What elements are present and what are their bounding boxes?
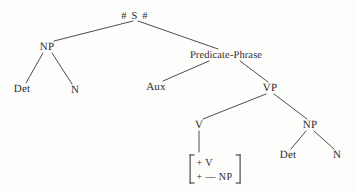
- edge-predicate-phrase-to-aux: [163, 61, 209, 81]
- node-aux: Aux: [146, 81, 166, 93]
- node-det-right: Det: [280, 149, 296, 161]
- syntax-tree-figure: # S # NP Predicate-Phrase Det N Aux VP V…: [0, 0, 357, 194]
- feature-matrix: + V + — NP: [190, 155, 241, 184]
- edge-np-subject-to-det: [26, 53, 43, 83]
- edge-vp-to-v: [203, 94, 266, 119]
- node-predicate-phrase: Predicate-Phrase: [190, 50, 262, 61]
- node-root: # S #: [121, 11, 149, 22]
- edge-np-subject-to-n: [52, 53, 72, 84]
- edge-vp-to-np-object: [274, 94, 307, 119]
- node-vp: VP: [263, 82, 277, 94]
- node-det-left: Det: [14, 83, 30, 95]
- edge-np-object-to-n: [314, 131, 334, 149]
- edge-root-to-predicate-phrase: [138, 21, 218, 49]
- feature-row-1: + V: [197, 156, 233, 170]
- tree-edges: [0, 0, 357, 194]
- feature-row-2: + — NP: [197, 169, 233, 183]
- close-bracket-icon: [235, 155, 240, 184]
- edge-predicate-phrase-to-vp: [240, 61, 268, 82]
- node-n-right: N: [333, 149, 341, 161]
- edge-np-object-to-det: [291, 131, 306, 149]
- node-v: V: [195, 119, 203, 131]
- node-np-object: NP: [303, 119, 317, 131]
- node-np-subject: NP: [40, 41, 54, 53]
- open-bracket-icon: [190, 155, 195, 184]
- edge-root-to-np-subject: [54, 21, 133, 41]
- feature-matrix-rows: + V + — NP: [195, 155, 236, 184]
- node-n-left: N: [71, 84, 79, 96]
